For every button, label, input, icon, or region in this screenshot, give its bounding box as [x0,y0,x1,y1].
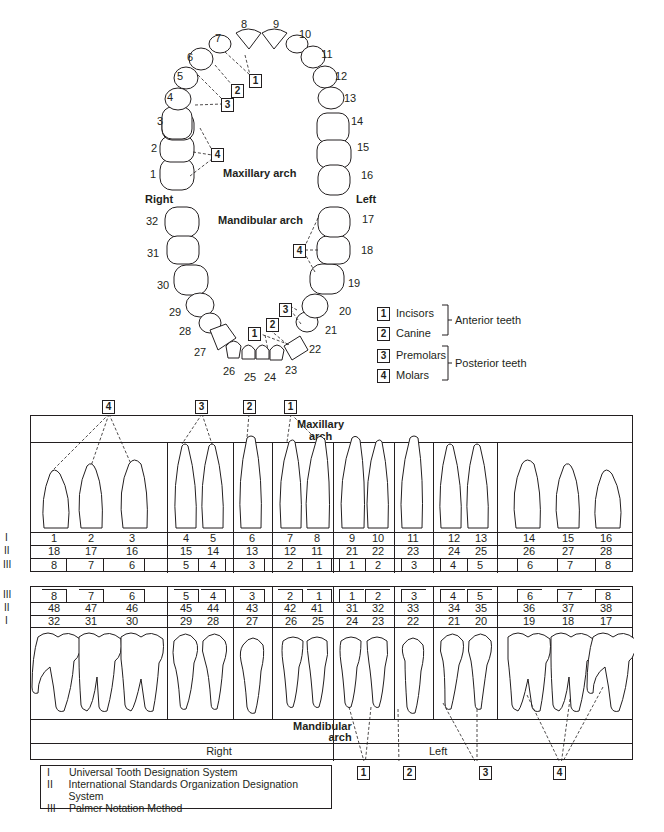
row-label-universal: I [5,532,8,543]
row-label-palmer: III [3,589,11,600]
maxillary-chart: Maxillary arch [30,415,633,572]
cell: 4 [440,559,465,572]
cell: 14 [203,545,223,558]
cell: 17 [81,545,101,558]
cell: 16 [122,545,142,558]
cell: 7 [79,559,104,572]
cell: 3 [401,559,426,572]
chart-callout-canine: 2 [243,400,256,414]
cell: 11 [403,532,423,545]
maxillary-universal-row: 1 2 3 4 5 6 7 8 9 10 11 12 13 14 15 16 [31,532,632,545]
legend-label: Universal Tooth Designation System [69,766,237,778]
cell: 16 [596,532,616,545]
maxillary-palmer-row: 8 7 6 5 4 3 2 1 1 2 3 4 5 6 7 8 [31,559,632,573]
cell: 13 [242,545,262,558]
row-label-iso: II [4,545,10,556]
legend-row: IIIPalmer Notation Method [41,802,331,814]
cell: 2 [81,532,101,545]
cell: 2 [278,559,303,572]
cell: 6 [517,559,542,572]
cell: 6 [242,532,262,545]
cell: 11 [307,545,327,558]
side-label-left: Left [429,745,447,757]
row-label-universal: I [5,615,8,626]
cell: 24 [444,545,464,558]
cell: 13 [471,532,491,545]
cell: 8 [42,559,67,572]
systems-legend: IUniversal Tooth Designation System IIIn… [40,765,332,809]
cell: 2 [365,559,390,572]
maxillary-teeth-drawing [31,416,634,536]
cell: 5 [203,532,223,545]
cell: 15 [558,532,578,545]
cell: 10 [368,532,388,545]
cell: 6 [120,559,145,572]
cell: 8 [307,532,327,545]
legend-key: I [41,766,69,778]
chart-callout-premolars: 3 [195,400,208,414]
cell: 7 [557,559,582,572]
row-label-iso: II [4,602,10,613]
chart-callout-molars: 4 [553,766,566,780]
cell: 14 [519,532,539,545]
cell: 5 [174,559,199,572]
chart-callout-molars: 4 [102,400,115,414]
side-label-right: Right [169,745,269,757]
chart-callout-incisors: 1 [284,400,297,414]
maxillary-iso-row: 18 17 16 15 14 13 12 11 21 22 23 24 25 2… [31,545,632,558]
chart-callout-incisors: 1 [357,766,370,780]
legend-row: IIInternational Standards Organization D… [41,778,331,802]
cell: 12 [280,545,300,558]
cell: 28 [596,545,616,558]
cell: 1 [307,559,332,572]
cell: 18 [44,545,64,558]
cell: 21 [342,545,362,558]
legend-brackets [0,0,664,400]
cell: 9 [342,532,362,545]
cell: 25 [471,545,491,558]
chart-callout-canine: 2 [403,766,416,780]
cell: 22 [368,545,388,558]
cell: 4 [176,532,196,545]
mandibular-chart-label: Mandibular arch [293,721,352,743]
cell: 12 [444,532,464,545]
cell: 7 [280,532,300,545]
cell: 26 [519,545,539,558]
cell: 3 [122,532,142,545]
cell: 1 [339,559,364,572]
cell: 15 [176,545,196,558]
cell: 27 [558,545,578,558]
cell: 1 [44,532,64,545]
group-label-posterior: Posterior teeth [455,357,527,369]
legend-row: IUniversal Tooth Designation System [41,766,331,778]
group-label-anterior: Anterior teeth [455,314,521,326]
cell: 23 [403,545,423,558]
cell: 4 [201,559,226,572]
cell: 5 [467,559,492,572]
cell: 3 [240,559,265,572]
mandibular-chart: 8 7 6 5 4 3 2 1 1 2 3 4 5 6 7 8 48 47 46… [30,586,633,760]
legend-label: International Standards Organization Des… [69,778,331,802]
legend-key: III [41,802,69,814]
cell: 8 [595,559,620,572]
chart-callout-premolars: 3 [479,766,492,780]
row-label-palmer: III [3,559,11,570]
legend-key: II [41,778,69,802]
legend-label: Palmer Notation Method [69,802,182,814]
